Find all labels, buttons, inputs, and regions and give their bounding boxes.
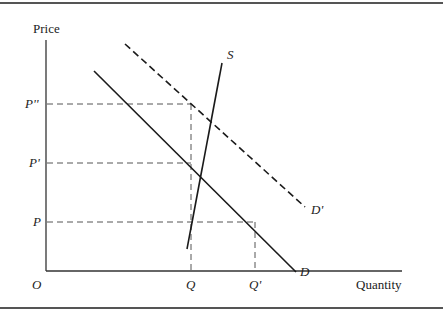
demand-shifted-curve-label: D' [310, 202, 323, 217]
quantity-label-q-prime: Q' [249, 277, 261, 292]
x-axis-label: Quantity [356, 277, 402, 292]
demand-shifted-curve [125, 44, 305, 207]
supply-demand-diagram: Price Quantity O P'' P' P Q Q' S D D' [0, 0, 443, 315]
quantity-label-q: Q [186, 277, 196, 292]
price-label-p: P [32, 214, 41, 229]
price-label-p-prime: P' [28, 155, 40, 170]
supply-curve-label: S [227, 47, 234, 62]
supply-curve [187, 63, 222, 249]
y-axis-label: Price [33, 21, 60, 36]
demand-curve-label: D [299, 264, 310, 279]
price-label-p-double-prime: P'' [24, 96, 39, 111]
origin-label: O [32, 277, 42, 292]
